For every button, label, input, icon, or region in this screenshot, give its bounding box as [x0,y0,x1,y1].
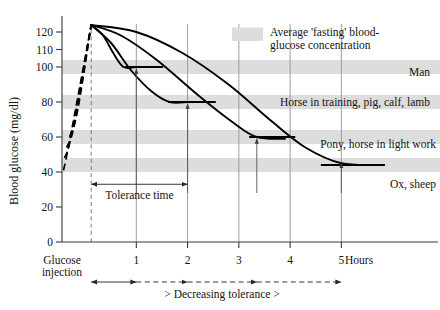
x-tick-label-5: 5 [338,254,344,266]
series-label-2: Pony, horse in light work [320,138,436,151]
rising-limb-2 [67,25,92,148]
x-tick-label-1: 1 [133,254,139,266]
y-tick-label-60: 60 [42,131,54,143]
y-axis-title: Blood glucose (mg/dl) [7,97,21,205]
series-label-1: Horse in training, pig, calf, lamb [280,96,430,109]
chart-canvas: Tolerance time> Decreasing tolerance > 0… [0,0,440,310]
legend-line-1: Average 'fasting' blood- [270,26,379,39]
series-label-0: Man [409,66,430,78]
curve-series-2 [91,25,285,139]
annotations-group: Tolerance time> Decreasing tolerance > [91,184,341,301]
y-tick-label-110: 110 [36,44,53,56]
legend-swatch [232,28,263,42]
fasting-bands-group [62,60,440,172]
decreasing-tolerance-label: > Decreasing tolerance > [164,288,279,301]
y-tick-label-80: 80 [42,96,54,108]
x-tick-label-3: 3 [236,254,242,266]
blood-glucose-tolerance-chart: Tolerance time> Decreasing tolerance > 0… [0,0,440,310]
x-tick-label-4: 4 [287,254,293,266]
legend: Average 'fasting' blood- glucose concent… [232,26,379,52]
tolerance-time-label: Tolerance time [105,189,173,201]
y-tick-label-20: 20 [42,201,54,213]
x-origin-label-line-1: Glucose [43,254,81,266]
y-tick-label-100: 100 [36,61,54,73]
y-tick-label-40: 40 [42,166,54,178]
axes-group [62,16,438,242]
y-tick-label-0: 0 [47,236,53,248]
legend-line-2: glucose concentration [270,39,371,52]
series-label-3: Ox, sheep [390,178,436,191]
y-tick-label-120: 120 [36,26,54,38]
x-tick-label-2: 2 [185,254,191,266]
x-origin-label-line-2: injection [42,266,82,279]
x-axis-title: Hours [345,254,374,266]
